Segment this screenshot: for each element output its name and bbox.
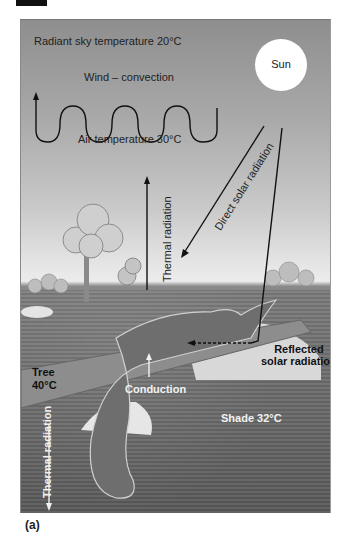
arrowhead-direct-icon — [181, 249, 189, 258]
tree-temperature-label: Tree 40°C — [32, 366, 57, 392]
wind-arrowhead-icon — [33, 92, 39, 100]
distant-trees-right — [265, 262, 314, 286]
tree-label-line1: Tree — [32, 366, 57, 379]
reflected-solar-radiation-label: Reflected solar radiation — [261, 343, 331, 367]
panel-label: (a) — [25, 518, 40, 532]
lizard-illustration — [90, 300, 276, 498]
conduction-label: Conduction — [125, 383, 186, 395]
reflected-label-line1: Reflected — [261, 343, 331, 355]
thermal-exchange-illustration: Sun Radiant sky temperature 20°C Wind – … — [20, 19, 331, 513]
arrowhead-down-icon — [46, 503, 52, 511]
scene-art — [21, 20, 330, 513]
distant-trees-left — [28, 274, 68, 293]
rock-left — [21, 306, 53, 318]
tree-illustration — [63, 204, 141, 302]
arrowhead-up-icon — [144, 176, 150, 184]
thermal-radiation-down-label: Thermal radiation — [41, 406, 53, 498]
sky-temperature-label: Radiant sky temperature 20°C — [34, 35, 181, 47]
tree-label-line2: 40°C — [32, 379, 57, 392]
air-temperature-label: Air temperature 30°C — [78, 133, 181, 145]
sun-label: Sun — [255, 58, 307, 70]
direct-solar-radiation-arrow — [184, 126, 264, 253]
sun: Sun — [255, 39, 307, 91]
reflected-label-line2: solar radiation — [261, 355, 331, 367]
thermal-radiation-up-label: Thermal radiation — [161, 196, 173, 282]
corner-tab — [16, 0, 47, 6]
wind-convection-label: Wind – convection — [84, 71, 174, 83]
shade-temperature-label: Shade 32°C — [221, 412, 282, 424]
